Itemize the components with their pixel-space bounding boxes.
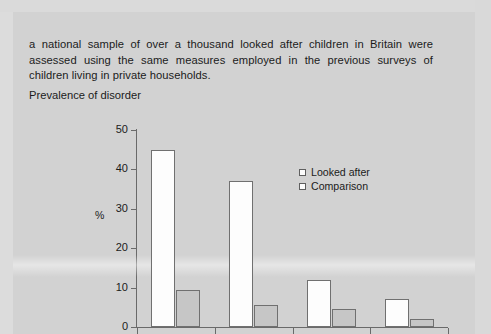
page-edge-left <box>0 0 13 334</box>
chart-legend: Looked after Comparison <box>299 166 370 193</box>
x-axis-tick <box>215 328 216 334</box>
y-axis-tick-label: 40 <box>88 162 128 174</box>
body-paragraph: a national sample of over a thousand loo… <box>29 37 433 84</box>
plot-area <box>137 130 448 327</box>
bar-comparison-group-1 <box>176 290 200 327</box>
legend-item-comparison: Comparison <box>299 180 370 194</box>
y-axis-tick-label: 0 <box>88 320 128 332</box>
x-axis-tick <box>293 328 294 334</box>
chart-caption: Prevalence of disorder <box>29 89 141 101</box>
page-edge-top <box>0 0 491 12</box>
y-axis-tick-label: 50 <box>88 123 128 135</box>
prevalence-of-disorder-bar-chart: % 01020304050 Looked after Comparison <box>0 112 491 334</box>
x-axis-tick <box>370 328 371 334</box>
legend-swatch-looked-after-icon <box>299 169 306 176</box>
bar-comparison-group-3 <box>332 309 356 327</box>
y-axis-tick-label: 20 <box>88 241 128 253</box>
bar-looked-after-group-1 <box>151 150 175 327</box>
bar-looked-after-group-3 <box>307 280 331 327</box>
page-edge-right <box>475 0 491 334</box>
legend-label-comparison: Comparison <box>311 180 368 194</box>
legend-label-looked-after: Looked after <box>311 166 370 180</box>
bar-looked-after-group-2 <box>229 181 253 327</box>
bar-comparison-group-4 <box>410 319 434 327</box>
x-axis-tick <box>137 328 138 334</box>
x-axis-tick <box>448 328 449 334</box>
legend-item-looked-after: Looked after <box>299 166 370 180</box>
bar-comparison-group-2 <box>254 305 278 327</box>
legend-swatch-comparison-icon <box>299 183 306 190</box>
y-axis-tick-label: 10 <box>88 281 128 293</box>
y-axis-tick-label: 30 <box>88 202 128 214</box>
bar-looked-after-group-4 <box>385 299 409 327</box>
